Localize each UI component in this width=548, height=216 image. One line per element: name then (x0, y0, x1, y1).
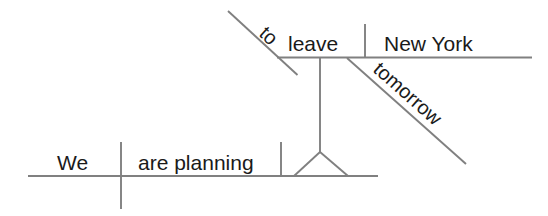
label-infinitive-object: New York (384, 32, 473, 55)
label-infinitive-particle: to (255, 22, 282, 49)
adverb-modifier-line (347, 58, 466, 164)
pedestal-left-leg (294, 152, 320, 176)
label-predicate: are planning (138, 151, 254, 174)
diagram-canvas: We are planning leave New York to tomorr… (0, 0, 548, 216)
pedestal-right-leg (320, 152, 348, 176)
sentence-diagram: We are planning leave New York to tomorr… (0, 0, 548, 216)
label-subject: We (57, 151, 88, 174)
label-infinitive-verb: leave (288, 32, 338, 55)
label-adverb: tomorrow (369, 58, 446, 130)
